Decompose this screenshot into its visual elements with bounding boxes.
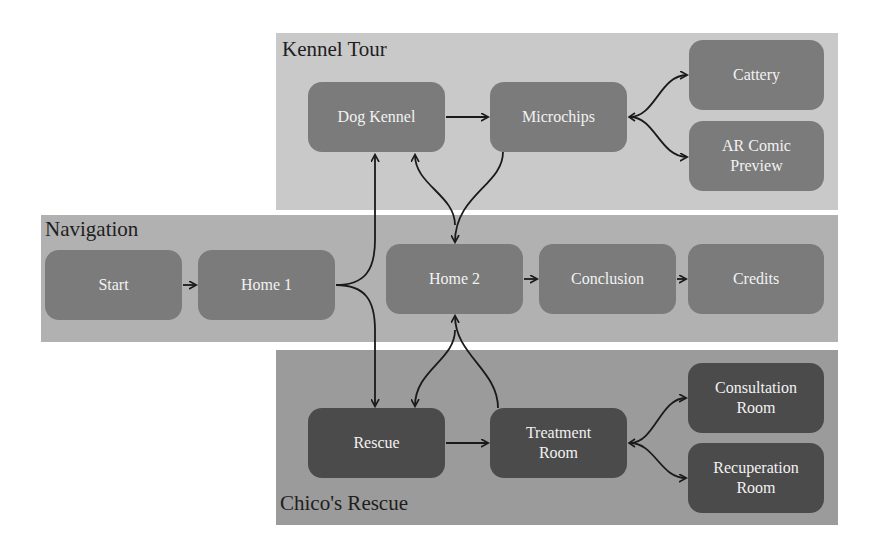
group-title-navigation: Navigation <box>45 219 138 240</box>
node-ar-comic-preview[interactable]: AR Comic Preview <box>689 121 824 191</box>
node-home-2[interactable]: Home 2 <box>386 244 523 314</box>
node-label: Start <box>98 275 128 295</box>
node-conclusion[interactable]: Conclusion <box>539 244 676 314</box>
node-label: Rescue <box>353 433 399 453</box>
node-rescue[interactable]: Rescue <box>308 408 445 478</box>
node-consultation-room[interactable]: Consultation Room <box>688 363 824 433</box>
node-label: Home 1 <box>241 275 292 295</box>
node-label: Conclusion <box>571 269 644 289</box>
group-title-chicos-rescue: Chico's Rescue <box>280 493 408 514</box>
node-treatment-room[interactable]: Treatment Room <box>490 408 627 478</box>
node-label: Consultation Room <box>715 378 797 418</box>
node-microchips[interactable]: Microchips <box>490 82 627 152</box>
node-label: Credits <box>733 269 779 289</box>
node-credits[interactable]: Credits <box>688 244 824 314</box>
node-label: Dog Kennel <box>338 107 416 127</box>
node-recuperation-room[interactable]: Recuperation Room <box>688 443 824 513</box>
node-label: Microchips <box>522 107 595 127</box>
node-dog-kennel[interactable]: Dog Kennel <box>308 82 445 152</box>
group-title-kennel-tour: Kennel Tour <box>282 39 387 60</box>
node-start[interactable]: Start <box>45 250 182 320</box>
node-label: Treatment Room <box>526 423 591 463</box>
node-cattery[interactable]: Cattery <box>689 40 824 110</box>
node-label: Cattery <box>733 65 780 85</box>
node-label: AR Comic Preview <box>722 136 791 176</box>
node-label: Home 2 <box>429 269 480 289</box>
node-home-1[interactable]: Home 1 <box>198 250 335 320</box>
node-label: Recuperation Room <box>713 458 798 498</box>
